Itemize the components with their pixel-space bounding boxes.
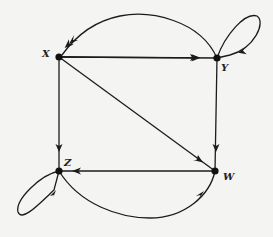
node-label-z: Z xyxy=(63,157,72,168)
edge-x-to-w xyxy=(59,57,215,171)
edge-y-to-x xyxy=(62,14,217,58)
graph-svg: X Y Z W xyxy=(0,0,273,237)
edge-z-to-w xyxy=(59,171,215,218)
node-label-x: X xyxy=(41,48,51,59)
directed-graph-diagram: X Y Z W xyxy=(0,0,273,237)
arrow-y-to-x xyxy=(69,35,78,44)
node-z xyxy=(55,167,62,174)
node-y xyxy=(213,54,220,61)
edge-y-self-loop xyxy=(217,16,260,58)
node-label-w: W xyxy=(223,171,236,182)
edge-z-self-loop xyxy=(18,171,59,215)
node-x xyxy=(55,53,62,60)
node-label-y: Y xyxy=(221,62,229,73)
edge-y-to-w xyxy=(215,58,217,171)
node-w xyxy=(211,167,218,174)
